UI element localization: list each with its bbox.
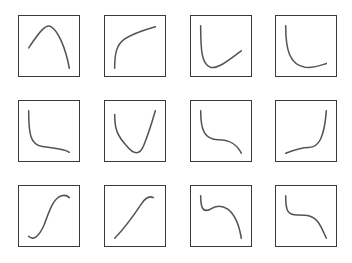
decay-slight-rise-curve <box>286 26 327 68</box>
curve-panel-logarithmic-rise <box>104 15 166 77</box>
curve-panel-hook-up-right <box>190 15 252 77</box>
curve-graph <box>105 186 165 246</box>
curve-panel-s-curve-rise <box>104 185 166 247</box>
hook-up-right-curve <box>201 26 242 68</box>
curve-graph <box>276 186 336 246</box>
s-curve-rise-curve <box>115 197 154 238</box>
curve-graph <box>191 101 251 161</box>
increasing-cubic-curve <box>286 111 327 154</box>
curve-graph <box>105 101 165 161</box>
s-curve-wavy-curve <box>29 195 70 238</box>
curve-panel-decay-flat <box>18 100 80 162</box>
curve-graph <box>191 16 251 76</box>
plateau-fall-curve <box>286 196 327 239</box>
asymmetric-valley-curve <box>115 111 156 153</box>
logarithmic-rise-curve <box>115 27 156 69</box>
curve-panel-local-min-max-fall <box>190 185 252 247</box>
curve-graph <box>191 186 251 246</box>
curve-graph <box>19 101 79 161</box>
curve-graph <box>19 186 79 246</box>
inverted-parabola-curve <box>29 26 70 68</box>
local-min-max-fall-curve <box>201 196 242 239</box>
decay-flat-curve <box>29 111 70 153</box>
curve-graph <box>19 16 79 76</box>
curve-panel-decreasing-cubic <box>190 100 252 162</box>
curve-graph <box>105 16 165 76</box>
curve-panel-asymmetric-valley <box>104 100 166 162</box>
curve-panel-decay-slight-rise <box>275 15 337 77</box>
curve-panel-increasing-cubic <box>275 100 337 162</box>
curve-panel-inverted-parabola <box>18 15 80 77</box>
curve-panel-plateau-fall <box>275 185 337 247</box>
curve-graph <box>276 101 336 161</box>
curve-panel-s-curve-wavy <box>18 185 80 247</box>
curve-graph <box>276 16 336 76</box>
decreasing-cubic-curve <box>201 111 242 154</box>
